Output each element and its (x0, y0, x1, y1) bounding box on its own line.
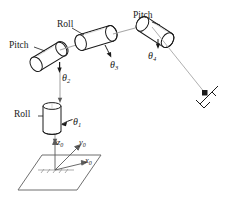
diagram-canvas (0, 0, 234, 197)
gripper (196, 86, 218, 108)
joint1-type-label: Roll (14, 110, 30, 120)
joint3-roll-cylinder (73, 24, 119, 52)
joint3-angle-label: θ3 (110, 60, 118, 71)
joint4-angle-label: θ4 (148, 51, 156, 62)
joint2-pitch-cylinder (27, 39, 70, 73)
joint4-type-label: Pitch (133, 11, 153, 21)
axis-y-label: y0 (79, 138, 86, 148)
joint2-angle-label: θ2 (62, 73, 70, 84)
joint3-type-label: Roll (57, 20, 73, 30)
gripper-center-marker (202, 90, 208, 96)
axis-z-label: z0 (57, 138, 63, 148)
axis-x-label: x0 (85, 156, 92, 166)
link-joint4-to-gripper (152, 27, 205, 93)
joint1-rotation-arrow (61, 120, 72, 127)
joint2-type-label: Pitch (9, 41, 29, 51)
joint1-roll-cylinder (43, 103, 61, 135)
joint1-angle-label: θ1 (73, 117, 81, 128)
joint3-rotation-arrow (105, 45, 111, 58)
robot-kinematic-diagram: Pitch Roll Pitch Roll θ1 θ2 θ3 θ4 z0 y0 … (0, 0, 234, 197)
